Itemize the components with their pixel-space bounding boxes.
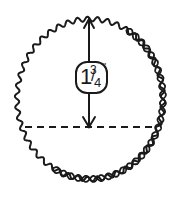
measurement-unit: " [103, 62, 106, 71]
measurement-label: 1 3 / 4 " [75, 61, 108, 94]
measurement-denominator: 4 [94, 76, 101, 89]
diagram-canvas [0, 0, 179, 197]
scalloped-circle-outline [15, 17, 165, 182]
twisted-rope-edge [53, 29, 166, 182]
